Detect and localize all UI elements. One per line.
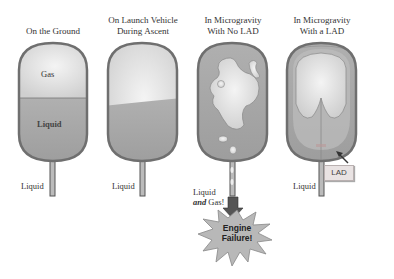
and-italic: and <box>193 197 206 207</box>
gas-text: Gas! <box>206 197 224 207</box>
engine-failure-line2: Failure! <box>197 233 277 243</box>
engine-failure-text: Engine Failure! <box>197 223 277 243</box>
tank-during-ascent <box>104 40 184 196</box>
panel-3-outlet-line2: and Gas! <box>193 197 224 207</box>
lad-callout-box: LAD <box>324 165 354 181</box>
liquid-label: Liquid <box>37 119 62 129</box>
gas-label: Gas <box>41 69 54 79</box>
engine-failure-line1: Engine <box>197 223 277 233</box>
panel-1-outlet-label: Liquid <box>21 181 44 191</box>
panel-2-outlet-label: Liquid <box>112 181 135 191</box>
panel-3-outlet-label: Liquid and Gas! <box>193 187 224 207</box>
tank-on-ground <box>15 40 95 196</box>
tank-microgravity-no-lad <box>194 40 274 196</box>
panel-4-outlet-label: Liquid <box>293 181 316 191</box>
panel-3-outlet-line1: Liquid <box>193 187 224 197</box>
